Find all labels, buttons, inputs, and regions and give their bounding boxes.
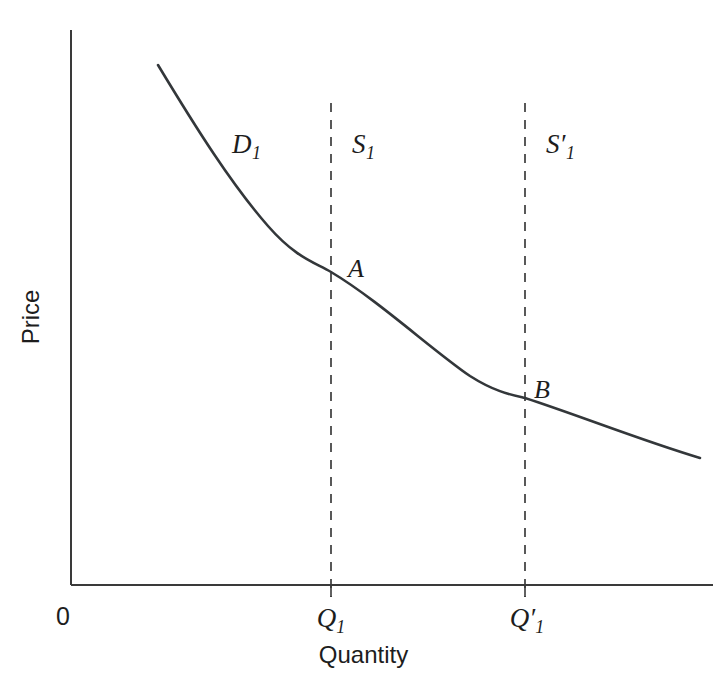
point-label-a: A <box>348 256 364 282</box>
curve-label-supply-2-prime: ′ <box>560 129 566 159</box>
demand-curve-d1 <box>158 65 700 458</box>
xtick-label-q1-base: Q <box>317 603 337 633</box>
curve-label-supply-2-sub: 1 <box>566 143 575 163</box>
xtick-label-q1-prime-sub: 1 <box>535 617 544 637</box>
y-axis-title: Price <box>17 290 45 345</box>
curve-label-demand-sub: 1 <box>252 143 261 163</box>
curve-label-supply-2-base: S <box>546 129 560 159</box>
curve-label-demand-base: D <box>232 129 252 159</box>
x-axis-title: Quantity <box>319 641 408 668</box>
curve-label-supply-1: S1 <box>352 131 375 162</box>
y-axis-title-wrap: Price <box>14 262 48 372</box>
xtick-label-q1-sub: 1 <box>336 617 345 637</box>
x-axis-title-wrap: Quantity <box>0 641 727 669</box>
xtick-label-q1-prime: Q′1 <box>510 605 544 636</box>
curve-label-supply-1-base: S <box>352 129 366 159</box>
chart-canvas <box>0 0 727 690</box>
curve-label-demand: D1 <box>232 131 261 162</box>
origin-label: 0 <box>56 604 70 629</box>
xtick-label-q1: Q1 <box>317 605 346 636</box>
curve-label-supply-1-sub: 1 <box>366 143 375 163</box>
curve-label-supply-2: S′1 <box>546 131 575 162</box>
xtick-label-q1-prime-base: Q <box>510 603 530 633</box>
demand-supply-chart: D1 S1 S′1 A B Q1 Q′1 0 Price Quantity <box>0 0 727 690</box>
point-label-b: B <box>534 377 550 403</box>
